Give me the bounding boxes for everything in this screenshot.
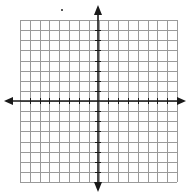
arrow-down-icon — [94, 182, 102, 192]
arrow-right-icon — [177, 97, 186, 105]
arrow-up-icon — [94, 5, 102, 15]
coordinate-plane — [0, 0, 189, 195]
arrow-left-icon — [4, 97, 13, 105]
axes — [4, 5, 186, 192]
